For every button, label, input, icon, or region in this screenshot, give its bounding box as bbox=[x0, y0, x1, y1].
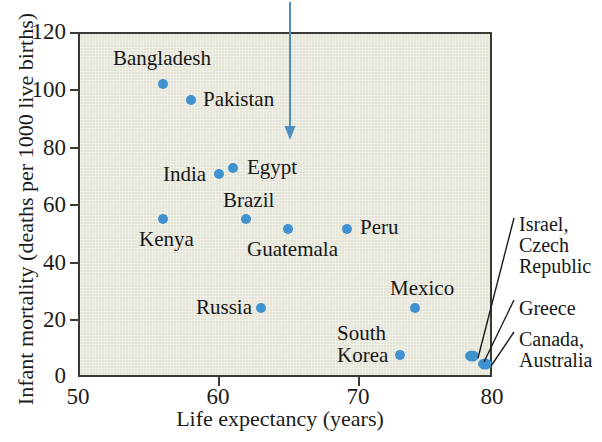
plot-area bbox=[78, 32, 492, 377]
y-axis-title: Infant mortality (deaths per 1000 live b… bbox=[13, 9, 39, 409]
y-tick-20 bbox=[70, 319, 79, 321]
y-tick-120 bbox=[70, 32, 79, 34]
callout-israel-czech-republic: Israel, Czech Republic bbox=[519, 214, 591, 277]
point-label-south-korea-line2: Korea bbox=[337, 344, 388, 366]
data-point-mexico bbox=[410, 303, 420, 313]
data-point-peru bbox=[342, 224, 352, 234]
data-point-egypt bbox=[228, 163, 238, 173]
data-point-canada-australia bbox=[478, 359, 492, 370]
data-point-russia bbox=[256, 303, 266, 313]
paper-texture bbox=[80, 34, 490, 375]
point-label-india: India bbox=[163, 163, 206, 185]
x-axis-label-50: 50 bbox=[58, 385, 98, 408]
point-label-bangladesh: Bangladesh bbox=[113, 47, 211, 69]
point-label-pakistan: Pakistan bbox=[203, 88, 274, 110]
callout-canada-australia: Canada, Australia bbox=[519, 329, 592, 371]
point-label-guatemala: Guatemala bbox=[247, 238, 338, 260]
point-label-peru: Peru bbox=[360, 216, 399, 238]
point-label-russia: Russia bbox=[196, 296, 252, 318]
data-point-bangladesh bbox=[158, 79, 168, 89]
y-tick-80 bbox=[70, 147, 79, 149]
data-point-south-korea bbox=[395, 350, 405, 360]
callout-greece: Greece bbox=[519, 298, 576, 319]
data-point-israel-czech-republic bbox=[465, 351, 479, 362]
point-label-brazil: Brazil bbox=[223, 189, 274, 211]
data-point-india bbox=[214, 169, 224, 179]
x-axis-label-80: 80 bbox=[472, 385, 512, 408]
clipped-top-caption bbox=[150, 0, 480, 2]
x-axis-title: Life expectancy (years) bbox=[0, 406, 560, 432]
point-label-egypt: Egypt bbox=[247, 156, 297, 178]
point-label-mexico: Mexico bbox=[390, 277, 454, 299]
point-label-south-korea-line1: South bbox=[337, 322, 386, 344]
point-label-kenya: Kenya bbox=[139, 228, 194, 250]
y-tick-40 bbox=[70, 262, 79, 264]
leader-line-canada-australia bbox=[491, 332, 514, 366]
scatter-plot-figure: 120 100 80 60 40 20 0 50 60 70 80 Life e… bbox=[0, 0, 602, 442]
x-axis-label-70: 70 bbox=[338, 385, 378, 408]
data-point-brazil bbox=[241, 214, 251, 224]
y-tick-100 bbox=[70, 89, 79, 91]
y-tick-60 bbox=[70, 204, 79, 206]
data-point-pakistan bbox=[186, 95, 196, 105]
x-axis-label-60: 60 bbox=[198, 385, 238, 408]
data-point-kenya bbox=[158, 214, 168, 224]
data-point-guatemala bbox=[283, 224, 293, 234]
